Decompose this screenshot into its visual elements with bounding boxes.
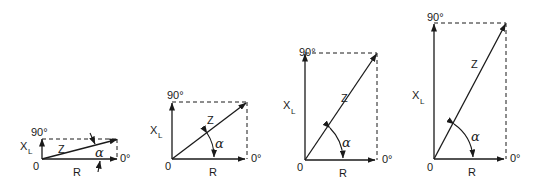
label-xl: X [20, 140, 28, 152]
label-0deg: 0° [510, 152, 521, 164]
label-r: R [339, 167, 347, 179]
label-alpha: α [215, 136, 224, 151]
angle-arrow-bottom [98, 161, 100, 172]
label-alpha: α [471, 129, 480, 144]
svg-text:L: L [158, 131, 163, 140]
z-vector [42, 140, 117, 160]
label-z: Z [341, 92, 348, 104]
label-z: Z [471, 58, 478, 70]
label-90: 90° [299, 46, 316, 58]
label-alpha: α [95, 145, 104, 160]
angle-arc [207, 133, 214, 157]
label-xl: X [283, 99, 291, 111]
label-origin: 0 [165, 160, 171, 172]
label-0deg: 0° [382, 153, 393, 165]
label-z: Z [58, 143, 65, 155]
label-r: R [73, 166, 81, 178]
label-90: 90° [167, 89, 184, 101]
label-0deg: 0° [120, 152, 131, 164]
label-xl: X [150, 124, 158, 136]
label-90: 90° [31, 126, 48, 138]
label-z: Z [207, 114, 214, 126]
impedance-diagrams: 90° X L Z α 0° 0 R 90° X L Z α 0° 0 R 90… [0, 0, 537, 191]
label-r: R [209, 166, 217, 178]
svg-text:L: L [291, 107, 296, 116]
z-vector [172, 103, 246, 159]
label-alpha: α [342, 135, 351, 150]
label-origin: 0 [297, 161, 303, 173]
diagram-3: 90° X L Z α 0° 0 R [283, 46, 393, 179]
diagram-4: 90° X L Z α 0° 0 R [412, 11, 521, 178]
label-origin: 0 [33, 160, 39, 172]
svg-text:L: L [420, 97, 425, 106]
label-r: R [468, 166, 476, 178]
diagram-1: 90° X L Z α 0° 0 R [20, 126, 131, 178]
z-vector [434, 24, 506, 159]
label-0deg: 0° [251, 152, 262, 164]
label-90: 90° [427, 11, 444, 23]
label-origin: 0 [427, 161, 433, 173]
diagram-2: 90° X L Z α 0° 0 R [150, 89, 262, 178]
label-xl: X [412, 89, 420, 101]
svg-text:L: L [28, 147, 33, 156]
